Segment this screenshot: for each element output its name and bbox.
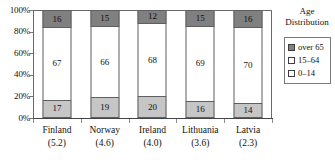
x-axis-line	[33, 118, 273, 119]
x-category-value: (2.3)	[224, 137, 272, 150]
bar-segment-value: 12	[148, 12, 157, 21]
bar-segment-value: 16	[196, 105, 205, 114]
bar-stack[interactable]: 156619	[90, 10, 119, 118]
legend-item-label: 0–14	[298, 69, 315, 78]
bar-segment[interactable]: 19	[90, 97, 119, 118]
x-category-label: Finland(5.2)	[33, 124, 81, 150]
bar-segment-value: 14	[244, 106, 253, 115]
x-category-label: Latvia(2.3)	[224, 124, 272, 150]
x-category-name: Lithuania	[176, 124, 224, 137]
legend-title-line-2: Distribution	[281, 17, 333, 28]
legend-item[interactable]: 0–14	[288, 67, 328, 80]
x-category-value: (4.0)	[129, 137, 177, 150]
bar-segment-value: 67	[52, 59, 61, 68]
y-tick-label: 60%	[0, 49, 30, 58]
bar-segment[interactable]: 15	[90, 10, 119, 26]
y-tick-label: 40%	[0, 70, 30, 79]
legend-item-label: 15–64	[298, 56, 319, 65]
bar-segment-value: 69	[196, 59, 205, 68]
bar-segment[interactable]: 67	[42, 27, 71, 99]
x-category-name: Ireland	[129, 124, 177, 137]
bar-segment[interactable]: 14	[234, 103, 263, 118]
bar-group: 156916	[176, 10, 224, 118]
x-category-name: Latvia	[224, 124, 272, 137]
x-category-value: (5.2)	[33, 137, 81, 150]
bar-segment[interactable]: 70	[234, 27, 263, 103]
legend-title-line-1: Age	[281, 6, 333, 17]
bars-layer: 166717156619126820156916167014	[33, 10, 272, 118]
y-tick-label: 80%	[0, 27, 30, 36]
x-category-value: (4.6)	[81, 137, 129, 150]
legend: Age Distribution over 6515–640–14	[281, 6, 335, 27]
bar-stack[interactable]: 156916	[186, 10, 215, 118]
bar-segment-value: 17	[52, 104, 61, 113]
bar-segment[interactable]: 15	[186, 10, 215, 26]
x-axis-category-labels: Finland(5.2)Norway(4.6)Ireland(4.0)Lithu…	[33, 124, 272, 158]
x-category-label: Norway(4.6)	[81, 124, 129, 150]
bar-segment[interactable]: 69	[186, 26, 215, 101]
bar-stack[interactable]: 126820	[138, 10, 167, 118]
y-tick-label: 100%	[0, 6, 30, 15]
bar-segment-value: 15	[196, 14, 205, 23]
bar-segment[interactable]: 17	[42, 100, 71, 118]
bar-stack[interactable]: 167014	[234, 10, 263, 118]
x-category-name: Finland	[33, 124, 81, 137]
legend-item[interactable]: 15–64	[288, 54, 328, 67]
bar-group: 156619	[81, 10, 129, 118]
legend-item-label: over 65	[298, 43, 324, 52]
bar-segment[interactable]: 12	[138, 10, 167, 23]
bar-segment-value: 66	[100, 58, 109, 67]
bar-segment[interactable]: 16	[234, 10, 263, 27]
y-tick-mark	[29, 53, 33, 54]
x-category-name: Norway	[81, 124, 129, 137]
bar-segment[interactable]: 16	[42, 10, 71, 27]
x-tick-mark	[176, 119, 177, 123]
y-axis: 0%20%40%60%80%100%	[0, 0, 30, 160]
bar-group: 126820	[129, 10, 177, 118]
bar-stack[interactable]: 166717	[42, 10, 71, 118]
stacked-bar-chart: 0%20%40%60%80%100% 166717156619126820156…	[0, 0, 335, 160]
y-tick-mark	[29, 32, 33, 33]
legend-item[interactable]: over 65	[288, 41, 328, 54]
x-tick-mark	[129, 119, 130, 123]
bar-group: 167014	[224, 10, 272, 118]
bar-group: 166717	[33, 10, 81, 118]
y-tick-mark	[29, 96, 33, 97]
y-tick-label: 0%	[0, 114, 30, 123]
bar-segment[interactable]: 66	[90, 26, 119, 97]
bar-segment-value: 19	[100, 103, 109, 112]
x-category-label: Lithuania(3.6)	[176, 124, 224, 150]
bar-segment-value: 68	[148, 56, 157, 65]
bar-segment[interactable]: 68	[138, 23, 167, 96]
y-tick-mark	[29, 75, 33, 76]
legend-title: Age Distribution	[281, 6, 333, 27]
bar-segment-value: 20	[148, 103, 157, 112]
y-tick-label: 20%	[0, 92, 30, 101]
x-category-value: (3.6)	[176, 137, 224, 150]
y-tick-mark	[29, 10, 33, 11]
x-tick-mark	[81, 119, 82, 123]
x-tick-mark	[272, 119, 273, 123]
legend-swatch-icon	[288, 70, 295, 77]
bar-segment-value: 16	[52, 15, 61, 24]
legend-swatch-icon	[288, 57, 295, 64]
bar-segment-value: 16	[244, 15, 253, 24]
legend-swatch-icon	[288, 44, 295, 51]
x-category-label: Ireland(4.0)	[129, 124, 177, 150]
legend-box: over 6515–640–14	[284, 37, 331, 84]
bar-segment[interactable]: 20	[138, 96, 167, 118]
bar-segment-value: 15	[100, 14, 109, 23]
x-tick-mark	[224, 119, 225, 123]
x-tick-mark	[33, 119, 34, 123]
bar-segment[interactable]: 16	[186, 101, 215, 118]
bar-segment-value: 70	[244, 61, 253, 70]
